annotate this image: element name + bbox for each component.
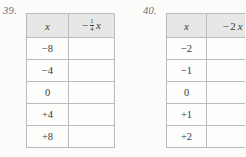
input-cell: 0 [167, 82, 207, 104]
table-header-row: x − 2 x [167, 14, 246, 38]
input-cell: +1 [167, 104, 207, 126]
input-cell: −4 [27, 60, 69, 82]
expression-variable: x [96, 20, 101, 31]
table-row: 0 [27, 82, 115, 104]
function-table-39: x − 1 4 x [26, 13, 115, 148]
output-cell[interactable] [69, 126, 115, 148]
cell-value: +4 [27, 109, 68, 120]
cell-value: −8 [27, 43, 68, 54]
input-variable-label: x [184, 20, 189, 32]
cell-value: +1 [167, 109, 206, 120]
input-cell: −8 [27, 38, 69, 60]
table-row: +4 [27, 104, 115, 126]
fraction-denominator: 4 [90, 25, 94, 33]
table-row: −1 [167, 60, 246, 82]
output-cell[interactable] [69, 38, 115, 60]
table-header-row: x − 1 4 x [27, 14, 115, 38]
cell-value: +2 [167, 131, 206, 142]
expression-negative-one-fourth-x: − 1 4 x [82, 19, 101, 33]
input-variable-label: x [45, 20, 50, 32]
output-cell[interactable] [207, 126, 246, 148]
column-header-input: x [27, 14, 69, 38]
output-cell[interactable] [69, 60, 115, 82]
input-cell: +8 [27, 126, 69, 148]
worksheet-page: 39. x − 1 4 x [0, 0, 245, 157]
column-header-output: − 2 x [207, 14, 246, 38]
table-row: +8 [27, 126, 115, 148]
input-cell: −1 [167, 60, 207, 82]
cell-value: −1 [167, 65, 206, 76]
output-cell[interactable] [69, 82, 115, 104]
input-cell: +2 [167, 126, 207, 148]
table-row: +1 [167, 104, 246, 126]
problem-number-40: 40. [143, 5, 157, 16]
output-cell[interactable] [207, 60, 246, 82]
expression-variable: x [238, 21, 243, 32]
output-cell[interactable] [207, 38, 246, 60]
cell-value: −2 [167, 43, 206, 54]
table-row: −2 [167, 38, 246, 60]
cell-value: +8 [27, 131, 68, 142]
table-row: −4 [27, 60, 115, 82]
output-cell[interactable] [69, 104, 115, 126]
minus-sign-icon: − [222, 21, 228, 32]
table-row: 0 [167, 82, 246, 104]
function-table-40: x − 2 x −2 [166, 13, 245, 148]
cell-value: −4 [27, 65, 68, 76]
table-row: +2 [167, 126, 246, 148]
column-header-input: x [167, 14, 207, 38]
minus-sign-icon: − [82, 20, 88, 31]
problem-number-39: 39. [3, 5, 17, 16]
expression-negative-two-x: − 2 x [222, 21, 242, 32]
expression-coefficient: 2 [230, 21, 236, 32]
output-cell[interactable] [207, 104, 246, 126]
input-cell: −2 [167, 38, 207, 60]
fraction-one-fourth: 1 4 [90, 18, 94, 32]
output-cell[interactable] [207, 82, 246, 104]
table-row: −8 [27, 38, 115, 60]
input-cell: 0 [27, 82, 69, 104]
input-cell: +4 [27, 104, 69, 126]
cell-value: 0 [167, 87, 206, 98]
cell-value: 0 [27, 87, 68, 98]
column-header-output: − 1 4 x [69, 14, 115, 38]
